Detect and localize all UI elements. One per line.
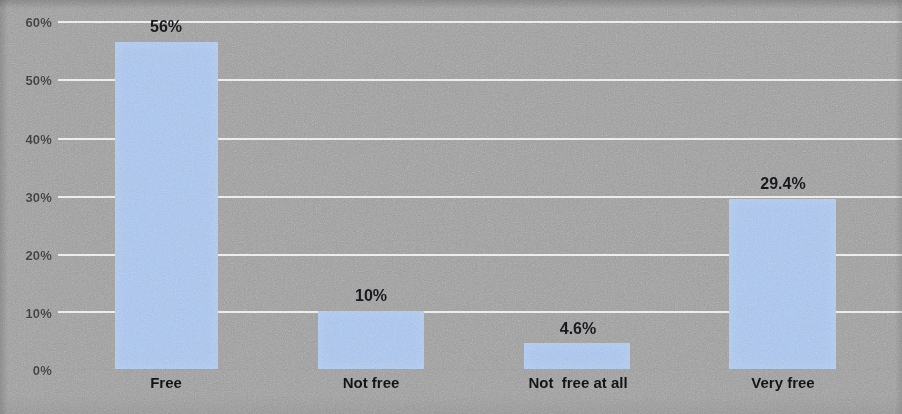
y-tick-label-50: 50%: [6, 73, 52, 88]
y-tick-label-0: 0%: [6, 363, 52, 378]
bar-not-free[interactable]: [318, 311, 424, 369]
y-tick-label-10: 10%: [6, 306, 52, 321]
y-tick-label-30: 30%: [6, 190, 52, 205]
y-tick-label-60: 60%: [6, 15, 52, 30]
bar-chart: 60% 50% 40% 30% 20% 10% 0% 56% 10% 4.6% …: [0, 0, 902, 414]
category-label-very-free: Very free: [751, 374, 814, 391]
bar-not-free-at-all[interactable]: [524, 343, 630, 369]
y-tick-label-40: 40%: [6, 132, 52, 147]
y-tick-label-20: 20%: [6, 248, 52, 263]
data-label-not-free-at-all: 4.6%: [560, 320, 596, 338]
bar-very-free[interactable]: [729, 199, 836, 369]
data-label-free: 56%: [150, 18, 182, 36]
gridline-baseline-0: [58, 369, 902, 370]
category-label-free: Free: [150, 374, 182, 391]
plot-area: 60% 50% 40% 30% 20% 10% 0% 56% 10% 4.6% …: [0, 0, 902, 414]
bar-free[interactable]: [115, 42, 218, 369]
data-label-very-free: 29.4%: [760, 175, 805, 193]
category-label-not-free: Not free: [343, 374, 400, 391]
data-label-not-free: 10%: [355, 287, 387, 305]
category-label-not-free-at-all: Not free at all: [528, 374, 627, 391]
gridline-60: [58, 21, 902, 23]
